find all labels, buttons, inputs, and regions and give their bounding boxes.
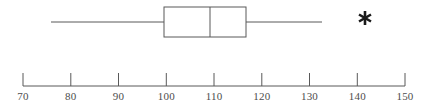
axis-tick-label-90: 90 — [102, 90, 136, 103]
axis-tick-label-100: 100 — [149, 90, 183, 103]
axis-tick-label-70: 70 — [6, 90, 40, 103]
axis-tick-label-150: 150 — [388, 90, 422, 103]
axis-tick-label-130: 130 — [293, 90, 327, 103]
axis-tick-label-110: 110 — [197, 90, 231, 103]
x-axis — [23, 73, 405, 86]
outlier-group — [359, 11, 371, 25]
boxplot-figure: 70 80 90 100 110 120 130 140 150 — [0, 0, 431, 112]
axis-ticks — [23, 73, 405, 86]
box-whisker-group — [51, 7, 322, 37]
outlier-asterisk-icon — [359, 11, 371, 25]
box-iqr-rect — [164, 7, 246, 37]
axis-tick-label-120: 120 — [245, 90, 279, 103]
axis-tick-label-80: 80 — [54, 90, 88, 103]
axis-tick-label-140: 140 — [340, 90, 374, 103]
